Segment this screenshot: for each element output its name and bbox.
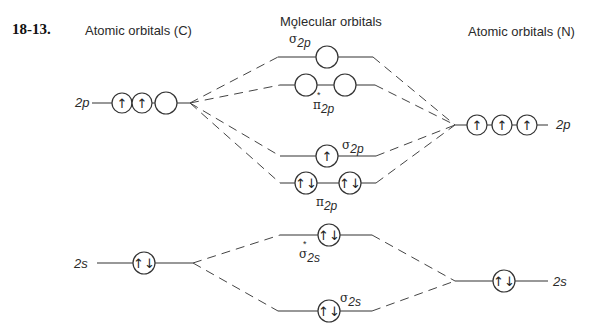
electron-up-arrow-icon: ↑	[322, 149, 333, 164]
electron-pair-arrows-icon: ↑↓	[318, 304, 340, 319]
sigma-star-2s-label: σ*2s	[299, 247, 320, 261]
electron-up-arrow-icon: ↑	[522, 118, 533, 133]
correlation-lines	[190, 57, 455, 311]
electron-pair-arrows-icon: ↑↓	[295, 176, 317, 191]
electron-up-arrow-icon: ↑	[137, 96, 148, 111]
header-atomic-orbitals-c: Atomic orbitals (C)	[85, 23, 192, 38]
c-2s-label: 2s	[74, 256, 88, 271]
n-2s-label: 2s	[553, 274, 567, 289]
electron-pair-arrows-icon: ↑↓	[493, 274, 515, 289]
electron-up-arrow-icon: ↑	[117, 96, 128, 111]
electron-pair-arrows-icon: ↑↓	[339, 176, 361, 191]
pi-star-2p-orbital-2	[334, 74, 356, 96]
mo-diagram-canvas: ↑ ↑ ↑↓ ↑ ↑ ↑ ↑↓ ↑ ↑↓ ↑↓ ↑↓ ↑↓	[0, 0, 595, 334]
n-2p-label: 2p	[556, 117, 570, 132]
problem-number: 18-13.	[12, 21, 51, 38]
electron-up-arrow-icon: ↑	[497, 118, 508, 133]
c-2p-label: 2p	[75, 95, 89, 110]
pi-star-2p-label: π*2p	[313, 98, 334, 112]
sigma-star-2p-label: σ*2p	[289, 32, 311, 46]
sigma-2p-label: σ2p	[342, 138, 364, 152]
pi-2p-label: π2p	[316, 195, 337, 209]
c-2p-orbital-3	[155, 92, 177, 114]
pi-star-2p-orbital-1	[295, 74, 317, 96]
sigma-2s-label: σ2s	[340, 291, 361, 305]
electron-pair-arrows-icon: ↑↓	[318, 228, 340, 243]
electron-up-arrow-icon: ↑	[472, 118, 483, 133]
header-atomic-orbitals-n: Atomic orbitals (N)	[468, 24, 575, 39]
sigma-star-2p-orbital	[316, 46, 338, 68]
electron-pair-arrows-icon: ↑↓	[133, 256, 155, 271]
